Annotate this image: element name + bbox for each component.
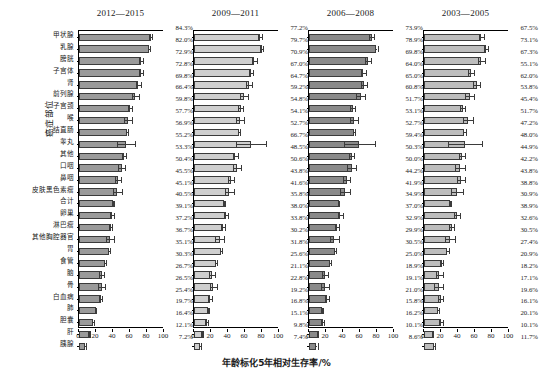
error-bar-cap [354, 153, 355, 159]
value-label: 66.7% [263, 129, 308, 141]
value-label: 38.8% [493, 177, 538, 189]
error-bar-cap [108, 248, 109, 254]
value-label: 22.8% [263, 272, 308, 284]
error-bar [225, 192, 235, 193]
value-label: 66.4% [148, 81, 193, 93]
error-bar-cap [106, 236, 107, 242]
error-bar-cap [243, 106, 244, 112]
value-label: 65.0% [378, 70, 423, 82]
error-bar-cap [99, 272, 100, 278]
error-bar-cap [339, 224, 340, 230]
error-bar-cap [465, 94, 466, 100]
error-bar-cap [215, 236, 216, 242]
error-bar-cap [353, 129, 354, 135]
value-label: 55.1% [493, 58, 538, 70]
value-label: 55.2% [148, 129, 193, 141]
error-bar-cap [257, 58, 258, 64]
value-label: 33.8% [263, 212, 308, 224]
category-label: 子宫体 [14, 66, 76, 78]
error-bar-cap [375, 46, 376, 52]
value-label: 19.7% [148, 295, 193, 307]
error-bar-cap [238, 153, 239, 159]
error-bar-cap [328, 272, 329, 278]
error-bar-cap [460, 106, 461, 112]
error-bar-cap [233, 165, 234, 171]
error-bar-cap [356, 94, 357, 100]
error-bar-cap [221, 224, 222, 230]
value-label: 40.5% [148, 188, 193, 200]
error-bar-cap [252, 58, 253, 64]
error-bar [124, 120, 131, 121]
error-bar-cap [222, 248, 223, 254]
error-bar [236, 144, 266, 145]
bar [79, 117, 128, 124]
bar [309, 81, 364, 88]
value-label: 25.4% [148, 284, 193, 296]
value-label: 77.2% [263, 22, 308, 34]
bar [424, 93, 470, 100]
error-bar-cap [329, 284, 330, 290]
bar [309, 224, 337, 231]
bar [424, 176, 461, 183]
error-bar-cap [139, 94, 140, 100]
value-label: 59.8% [148, 93, 193, 105]
error-bar-cap [455, 236, 456, 242]
error-bar-cap [225, 224, 226, 230]
error-bar [98, 287, 105, 288]
error-bar-cap [325, 296, 326, 302]
value-label: 26.5% [148, 272, 193, 284]
error-bar [321, 287, 329, 288]
value-label: 17.1% [493, 272, 538, 284]
bar [194, 81, 249, 88]
error-bar-cap [361, 70, 362, 76]
error-bar-cap [215, 272, 216, 278]
error-bar-cap [260, 46, 261, 52]
error-bar-cap [113, 189, 114, 195]
value-label: 51.7% [378, 93, 423, 105]
error-bar-cap [482, 141, 483, 147]
error-bar-cap [329, 296, 330, 302]
bar [79, 81, 138, 88]
value-label: 30.5% [378, 236, 423, 248]
error-bar-cap [338, 213, 339, 219]
value-label: 16.8% [263, 295, 308, 307]
error-bar-cap [238, 129, 239, 135]
error-bar-cap [443, 296, 444, 302]
error-bar [344, 144, 375, 145]
value-label: 15.1% [263, 307, 308, 319]
value-label: 31.8% [263, 236, 308, 248]
bar [309, 93, 361, 100]
value-label-column: 67.5%73.1%67.3%55.1%62.0%53.8%45.4%51.7%… [493, 22, 538, 343]
error-bar-cap [94, 320, 95, 326]
error-bar-cap [322, 272, 323, 278]
bar [79, 200, 113, 207]
value-label: 53.1% [378, 105, 423, 117]
error-bar-cap [443, 320, 444, 326]
value-label: 59.2% [263, 81, 308, 93]
category-label: 淋巴瘤 [14, 220, 76, 232]
value-label: 30.9% [493, 188, 538, 200]
error-bar-cap [99, 296, 100, 302]
error-bar-cap [340, 189, 341, 195]
value-label: 53.3% [148, 141, 193, 153]
error-bar-cap [480, 82, 481, 88]
error-bar [210, 287, 217, 288]
error-bar-cap [323, 308, 324, 314]
bar [194, 117, 240, 124]
error-bar-cap [234, 177, 235, 183]
value-label: 36.7% [148, 224, 193, 236]
value-label: 21.1% [263, 260, 308, 272]
error-bar-cap [240, 94, 241, 100]
bar [194, 129, 239, 136]
error-bar-cap [208, 320, 209, 326]
value-label: 52.7% [378, 117, 423, 129]
category-label-column: 甲状腺乳腺膀胱子宫体肾前列腺子宫颈喉结直肠睾丸其他口咽鼻咽皮肤黑色素瘤合计卵巢淋… [14, 30, 76, 351]
bar [194, 260, 216, 267]
value-label: 16.1% [493, 295, 538, 307]
error-bar-cap [321, 320, 322, 326]
error-bar [356, 96, 365, 97]
error-bar-cap [248, 94, 249, 100]
category-label: 卵巢 [14, 208, 76, 220]
bar [424, 117, 468, 124]
error-bar-cap [438, 296, 439, 302]
